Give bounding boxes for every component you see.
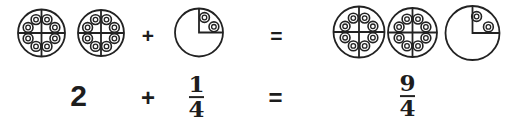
pie-whole-4 [388, 8, 437, 57]
fraction-one-fourth: 1 4 [188, 75, 204, 119]
fraction-illustration: + = 2 + 1 4 = 9 4 [0, 0, 512, 125]
whole-number: 2 [70, 81, 87, 111]
fraction-numerator: 9 [399, 74, 415, 92]
pie-whole-2 [78, 10, 124, 56]
equals-sign-pies: = [270, 24, 282, 45]
fraction-nine-fourths: 9 4 [399, 74, 415, 118]
equals-sign: = [268, 86, 282, 110]
cookie-ring [472, 12, 494, 32]
fraction-denominator: 4 [188, 101, 204, 119]
fraction-numerator: 1 [188, 75, 204, 93]
fraction-denominator: 4 [399, 100, 415, 118]
pie-quarter-right [446, 6, 500, 60]
pie-quarter-left [175, 9, 223, 57]
plus-sign-pies: + [142, 25, 154, 46]
plus-sign: + [141, 86, 155, 110]
pie-whole-1 [18, 10, 65, 57]
pie-whole-3 [334, 7, 385, 58]
